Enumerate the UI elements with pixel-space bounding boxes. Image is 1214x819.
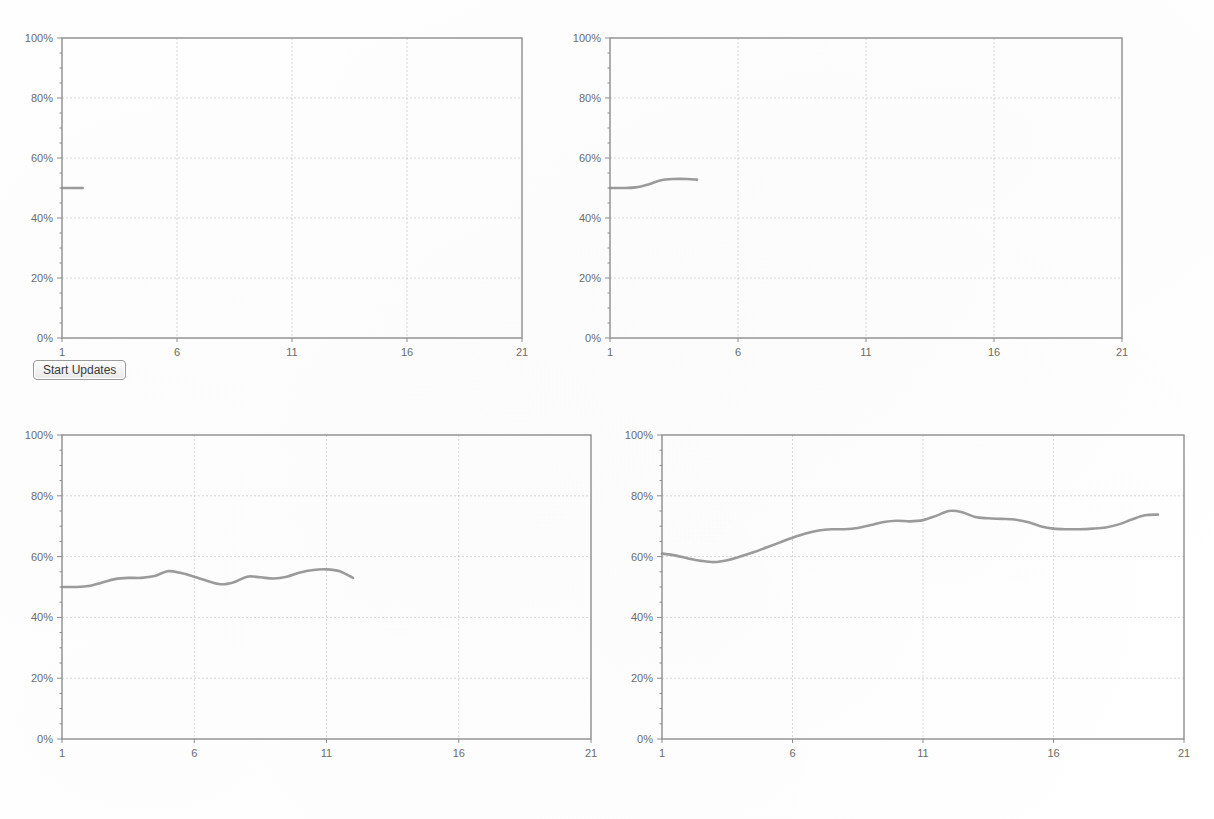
y-axis-tick-label: 100% [25, 429, 53, 441]
x-axis-tick-label: 21 [1178, 747, 1190, 759]
x-axis-tick-label: 6 [735, 346, 741, 358]
chart-bottom-left: 0%20%40%60%80%100%16111621 [14, 425, 599, 767]
y-axis-tick-label: 80% [31, 490, 53, 502]
x-axis-tick-label: 11 [917, 747, 928, 759]
series-line-cpu [62, 569, 353, 587]
y-axis-tick-label: 40% [631, 611, 653, 623]
chart-panel-top-left: 0%20%40%60%80%100%16111621 [20, 28, 530, 364]
y-axis-tick-label: 0% [37, 733, 53, 745]
y-axis-tick-label: 20% [31, 672, 53, 684]
y-axis-tick-label: 40% [31, 212, 53, 224]
series-line-cpu [610, 179, 697, 188]
y-axis-tick-label: 60% [631, 551, 653, 563]
chart-bottom-right: 0%20%40%60%80%100%16111621 [614, 425, 1192, 767]
y-axis-tick-label: 60% [31, 551, 53, 563]
x-axis-tick-label: 1 [659, 747, 665, 759]
start-updates-button[interactable]: Start Updates [33, 360, 126, 380]
y-axis-tick-label: 100% [25, 32, 53, 44]
chart-panel-bottom-left: 0%20%40%60%80%100%16111621 [14, 425, 599, 767]
x-axis-tick-label: 16 [988, 346, 1000, 358]
y-axis-tick-label: 100% [573, 32, 601, 44]
y-axis-tick-label: 60% [31, 152, 53, 164]
x-axis-tick-label: 6 [191, 747, 197, 759]
y-axis-tick-label: 20% [31, 272, 53, 284]
y-axis-tick-label: 0% [637, 733, 653, 745]
y-axis-tick-label: 0% [37, 332, 53, 344]
x-axis-tick-label: 1 [59, 346, 65, 358]
x-axis-tick-label: 6 [174, 346, 180, 358]
y-axis-tick-label: 80% [579, 92, 601, 104]
x-axis-tick-label: 1 [607, 346, 613, 358]
y-axis-tick-label: 60% [579, 152, 601, 164]
x-axis-tick-label: 11 [860, 346, 871, 358]
x-axis-tick-label: 6 [789, 747, 795, 759]
x-axis-tick-label: 21 [1116, 346, 1128, 358]
y-axis-tick-label: 40% [31, 611, 53, 623]
x-axis-tick-label: 16 [1047, 747, 1059, 759]
series-line-cpu [662, 511, 1158, 562]
y-axis-tick-label: 80% [31, 92, 53, 104]
x-axis-tick-label: 21 [516, 346, 528, 358]
y-axis-tick-label: 20% [579, 272, 601, 284]
chart-panel-top-right: 0%20%40%60%80%100%16111621 [568, 28, 1130, 364]
chart-top-right: 0%20%40%60%80%100%16111621 [568, 28, 1130, 364]
x-axis-tick-label: 11 [321, 747, 332, 759]
y-axis-tick-label: 80% [631, 490, 653, 502]
x-axis-tick-label: 11 [286, 346, 297, 358]
y-axis-tick-label: 40% [579, 212, 601, 224]
x-axis-tick-label: 16 [401, 346, 413, 358]
x-axis-tick-label: 21 [585, 747, 597, 759]
y-axis-tick-label: 20% [631, 672, 653, 684]
y-axis-tick-label: 100% [625, 429, 653, 441]
y-axis-tick-label: 0% [585, 332, 601, 344]
chart-panel-bottom-right: 0%20%40%60%80%100%16111621 [614, 425, 1192, 767]
x-axis-tick-label: 1 [59, 747, 65, 759]
x-axis-tick-label: 16 [453, 747, 465, 759]
chart-top-left: 0%20%40%60%80%100%16111621 [20, 28, 530, 364]
